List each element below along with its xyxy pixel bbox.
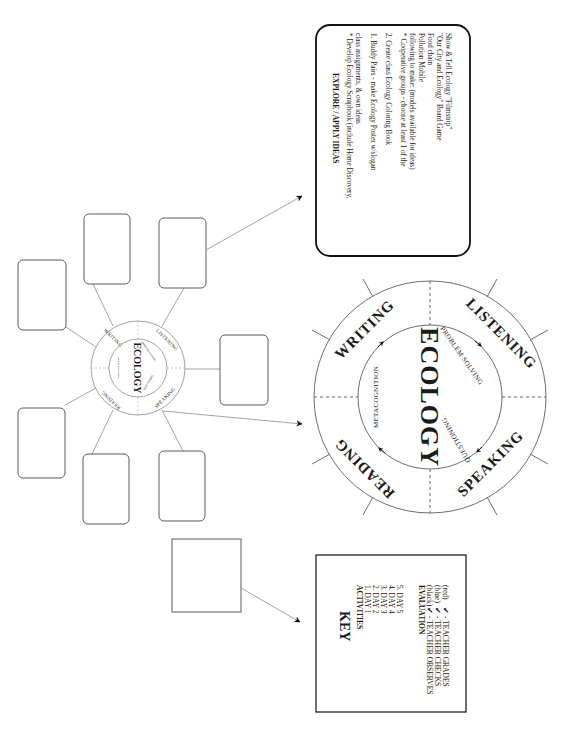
ring-label-listening: LISTENING: [463, 295, 540, 372]
explore-line: "Our City and Ecology" Board Game: [435, 33, 443, 140]
inner-label-metacognition: METACOGNITION: [372, 366, 380, 428]
check-icon: ✔: [441, 607, 450, 614]
explore-line: Food chain: [426, 33, 434, 66]
key-box: KEY ACTIVITIES 1. DAY 1 2. DAY 2 3. DAY …: [316, 555, 466, 712]
small-ecology-wheel: ECOLOGY WRITING LISTENING SPEAKING READI…: [91, 321, 185, 415]
ring-label-reading: READING: [331, 435, 397, 501]
eval-color-label: (red): [441, 585, 450, 600]
big-ecology-wheel: ECOLOGY WRITING LISTENING SPEAKING READI…: [312, 279, 548, 515]
activities-heading: ACTIVITIES: [355, 585, 364, 629]
ring-label-writing: WRITING: [332, 297, 398, 363]
blank-box-7: [159, 451, 205, 521]
eval-text: - TEACHER OBSERVES: [425, 616, 434, 694]
check-icon: ✔: [433, 607, 442, 614]
blank-box-3: [159, 218, 206, 288]
activity-item: 4. DAY 4: [387, 585, 396, 614]
activity-item: 3. DAY 3: [379, 585, 388, 614]
explore-line: 1. Buddy Pairs - make Ecology Poster w/s…: [369, 33, 377, 171]
blank-box-1: [18, 260, 66, 330]
small-center-label: ECOLOGY: [132, 342, 143, 394]
small-inner-questioning: QUESTIONING: [143, 374, 154, 391]
explore-line: Pollution Mobile: [417, 33, 425, 82]
big-center-label: ECOLOGY: [415, 327, 444, 467]
eval-text: - TEACHER GRADES: [441, 616, 450, 687]
activity-item: 2. DAY 2: [371, 585, 380, 614]
activity-item: 1. DAY 1: [363, 585, 372, 614]
small-inner-metacognition: METACOGNITION: [117, 357, 120, 379]
cycle-arrow-1: [378, 343, 382, 347]
eval-color-label: (blue): [433, 585, 442, 603]
arrow-to-key-box: [241, 588, 300, 622]
explore-title: EXPLORE / APPLY IDEAS: [331, 73, 340, 164]
explore-apply-box: EXPLORE / APPLY IDEAS * Develop Ecology …: [316, 25, 470, 256]
small-label-writing: WRITING: [103, 328, 123, 348]
blank-box-6: [83, 454, 129, 524]
explore-line: class assignments, & own ideas: [354, 33, 362, 124]
evaluation-heading: EVALUATION: [417, 585, 426, 635]
blank-box-2: [84, 214, 130, 284]
cycle-arrow-4: [380, 449, 385, 453]
check-icon: ✔: [425, 607, 434, 614]
arrow-to-explore-box: [206, 196, 302, 250]
explore-line: following to make: (models available for…: [408, 33, 416, 170]
ecology-unit-diagram: ECOLOGY WRITING LISTENING SPEAKING READI…: [0, 0, 561, 730]
blank-boxes: [18, 214, 268, 612]
cycle-arrow-3: [478, 447, 482, 451]
eval-color-label: (black): [425, 585, 434, 607]
blank-square: [172, 539, 241, 612]
arrow-to-big-wheel: [163, 411, 302, 424]
explore-line: 2. Create class Ecology Coloring Book: [384, 33, 392, 146]
explore-line: * Develop Ecology Scrapbook (include Hom…: [345, 33, 353, 199]
inner-label-problem-solving: PROBLEM SOLVING: [438, 325, 484, 386]
explore-line: * Cooperative groups - choose at least 1…: [399, 33, 407, 167]
blank-box-5: [18, 408, 65, 478]
cycle-arrow-2: [475, 341, 480, 345]
blank-box-4: [220, 335, 268, 405]
explore-line: Show & Tell Ecology "Filmstrip": [444, 33, 452, 129]
eval-text: - TEACHER CHECKS: [433, 616, 442, 686]
key-title: KEY: [337, 611, 352, 641]
activity-item: 5. DAY 5: [395, 585, 404, 614]
